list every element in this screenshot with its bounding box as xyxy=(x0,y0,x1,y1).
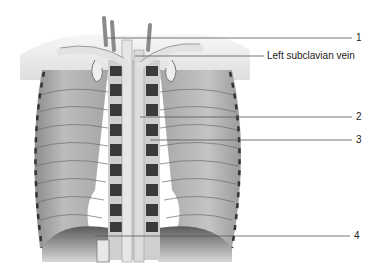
label-2: 2 xyxy=(356,111,362,123)
label-4: 4 xyxy=(354,230,360,242)
leader-lines xyxy=(0,0,376,270)
anatomy-figure: 1 Left subclavian vein 2 3 4 xyxy=(0,0,376,270)
label-left-subclavian-vein: Left subclavian vein xyxy=(267,50,355,62)
label-1: 1 xyxy=(356,32,362,44)
label-3: 3 xyxy=(356,134,362,146)
